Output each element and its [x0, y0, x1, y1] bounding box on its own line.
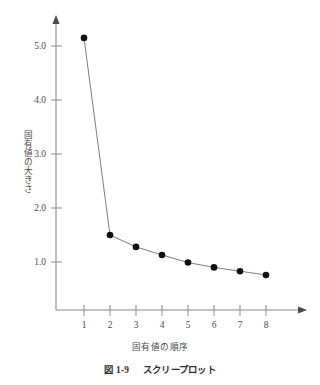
scree-plot: 1.0 2.0 3.0 4.0 5.0 1 2 3	[0, 0, 320, 330]
figure-caption: 図 1-9 スクリープロット	[0, 362, 320, 376]
data-point-6	[211, 264, 218, 271]
data-point-3	[133, 244, 140, 251]
scree-line	[84, 38, 266, 275]
x-tick-label-2: 2	[108, 320, 113, 330]
y-tick-labels: 1.0 2.0 3.0 4.0 5.0	[34, 41, 46, 267]
figure-container: 1.0 2.0 3.0 4.0 5.0 1 2 3	[0, 0, 320, 385]
data-point-2	[107, 232, 114, 239]
scree-markers	[81, 35, 270, 279]
x-tick-label-4: 4	[160, 320, 165, 330]
y-tick-label-1: 1.0	[34, 257, 46, 267]
y-axis-title: 固有値の大きさ	[18, 118, 32, 204]
data-point-4	[159, 252, 166, 259]
x-axis-arrow-icon	[298, 306, 307, 313]
x-tick-label-1: 1	[82, 320, 87, 330]
x-axis-title: 固有値の順序	[0, 340, 320, 352]
y-axis-arrow-icon	[52, 15, 59, 24]
plot-svg: 1.0 2.0 3.0 4.0 5.0 1 2 3	[0, 0, 320, 330]
data-point-7	[237, 268, 244, 275]
data-point-8	[263, 272, 270, 279]
y-tick-label-2: 2.0	[34, 203, 46, 213]
data-point-5	[185, 259, 192, 266]
x-tick-label-5: 5	[186, 320, 191, 330]
x-tick-label-8: 8	[264, 320, 269, 330]
x-tick-label-3: 3	[134, 320, 139, 330]
y-tick-label-4: 4.0	[34, 95, 46, 105]
x-tick-label-6: 6	[212, 320, 217, 330]
caption-number: 図 1-9	[104, 365, 129, 375]
data-point-1	[81, 35, 88, 42]
x-tick-label-7: 7	[238, 320, 243, 330]
x-tick-labels: 1 2 3 4 5 6 7 8	[82, 320, 269, 330]
y-tick-label-5: 5.0	[34, 41, 46, 51]
y-tick-label-3: 3.0	[34, 149, 46, 159]
caption-title: スクリープロット	[143, 365, 216, 375]
